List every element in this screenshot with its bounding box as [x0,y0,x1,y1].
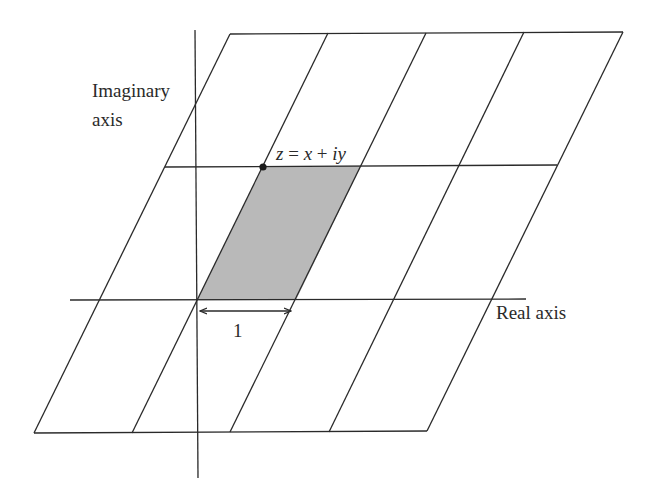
point-z-dot [259,163,266,170]
real-axis [70,299,526,300]
shaded-fundamental-cell [197,166,361,300]
imaginary-axis [195,30,198,478]
real-axis-label: Real axis [496,302,566,323]
unit-length-label: 1 [233,320,243,341]
lattice-slant-line-4 [329,32,524,432]
iy-symbol: iy [332,143,346,164]
equals-symbol: = [283,143,303,164]
lattice-diagram: Imaginary axis z = x + iy 1 Real axis [0,0,653,495]
imaginary-axis-label-line1: Imaginary [92,80,171,101]
lattice-slant-line-5 [427,32,623,431]
point-z-label: z = x + iy [275,143,347,164]
lattice-top-edge [230,32,623,34]
imaginary-axis-label-line2: axis [92,109,123,130]
plus-symbol: + [312,143,332,164]
